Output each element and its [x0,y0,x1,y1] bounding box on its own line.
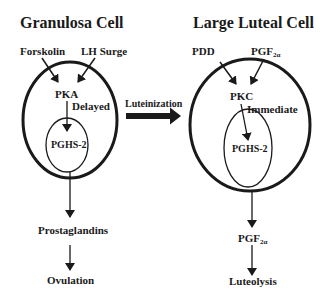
large-luteal-cell-title: Large Luteal Cell [193,15,314,31]
lh-surge-label: LH Surge [81,46,127,57]
forskolin-label: Forskolin [20,46,65,57]
granulosa-cell-title: Granulosa Cell [20,15,124,31]
luteal-cell-membrane [190,59,310,191]
delayed-label: Delayed [72,101,110,112]
immediate-label: Immediate [247,104,298,115]
ovulation-label: Ovulation [47,275,94,286]
luteinization-label: Luteinization [125,99,182,109]
granulosa-cell-membrane [23,62,117,178]
pkc-label: PKC [230,91,253,102]
right-pghs2-label: PGHS-2 [232,144,268,154]
pgf2a-product-label: PGF2α [238,233,267,246]
pka-label: PKA [55,89,78,100]
pgf-product-text: PGF [238,232,260,244]
luteolysis-label: Luteolysis [229,276,277,287]
arrow-pgf-pkc [251,59,264,84]
luteinization-arrow [126,108,181,125]
pgf2a-input-label: PGF2α [251,46,280,59]
prostaglandins-label: Prostaglandins [38,225,108,236]
pgf-input-subscript: 2α [273,51,280,59]
arrow-pdd-pkc [220,62,236,84]
pgf-input-text: PGF [251,45,273,57]
diagram-canvas: Granulosa Cell Forskolin LH Surge PKA De… [0,0,332,296]
left-pghs2-label: PGHS-2 [51,140,87,150]
pgf-product-subscript: 2α [260,238,267,246]
pdd-label: PDD [192,46,215,57]
